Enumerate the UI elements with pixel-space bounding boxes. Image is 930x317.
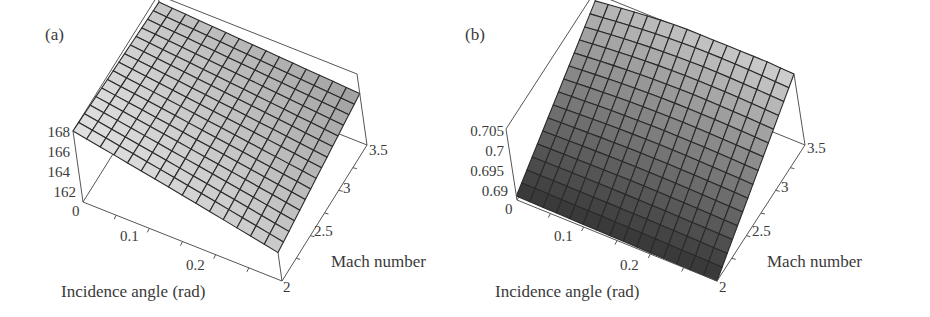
y-tick-a-2: 2 — [283, 280, 291, 295]
z-tick-b-0.69: 0.69 — [456, 184, 508, 199]
y-tick-a-2.5: 2.5 — [314, 224, 333, 239]
z-tick-a-162: 162 — [36, 185, 76, 200]
y-tick-a-3.5: 3.5 — [369, 143, 388, 158]
y-tick-b-2.5: 2.5 — [752, 224, 771, 239]
x-tick-b-0: 0 — [505, 202, 513, 217]
x-axis-title-b: Incidence angle (rad) — [495, 283, 639, 300]
chart-panel-b: (b) 0.705 0.7 0.695 0.69 0 0.1 0.2 3.5 3… — [460, 0, 930, 317]
y-tick-a-3: 3 — [343, 181, 351, 196]
x-tick-b-0.1: 0.1 — [554, 229, 573, 244]
y-axis-title-b: Mach number — [767, 253, 862, 270]
z-tick-b-0.695: 0.695 — [456, 164, 504, 179]
x-tick-a-0.1: 0.1 — [120, 229, 139, 244]
z-tick-a-168: 168 — [36, 125, 70, 140]
z-tick-a-164: 164 — [36, 165, 70, 180]
z-tick-b-0.705: 0.705 — [456, 124, 504, 139]
chart-panel-a: (a) 168 166 164 162 0 0.1 0.2 3.5 3 2.5 … — [0, 0, 460, 317]
x-tick-b-0.2: 0.2 — [620, 258, 639, 273]
y-axis-title-a: Mach number — [331, 253, 426, 270]
z-tick-a-166: 166 — [36, 145, 70, 160]
panel-label-b: (b) — [465, 26, 485, 43]
z-tick-b-0.7: 0.7 — [456, 144, 504, 159]
panel-label-a: (a) — [45, 26, 64, 43]
x-tick-a-0: 0 — [72, 204, 80, 219]
y-tick-b-3.5: 3.5 — [807, 141, 826, 156]
x-axis-title-a: Incidence angle (rad) — [61, 283, 205, 300]
y-tick-b-2: 2 — [719, 280, 727, 295]
x-tick-a-0.2: 0.2 — [186, 258, 205, 273]
y-tick-b-3: 3 — [781, 180, 789, 195]
